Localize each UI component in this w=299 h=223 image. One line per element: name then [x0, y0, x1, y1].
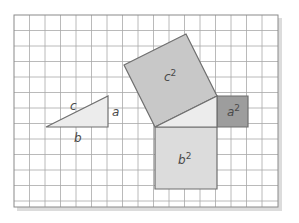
pythagorean-diagram: c a b c2 a2 b2 — [0, 0, 299, 223]
label-b: b — [74, 131, 82, 145]
label-c: c — [70, 99, 77, 113]
label-a: a — [112, 105, 119, 119]
diagram-canvas: c a b c2 a2 b2 — [0, 0, 299, 223]
